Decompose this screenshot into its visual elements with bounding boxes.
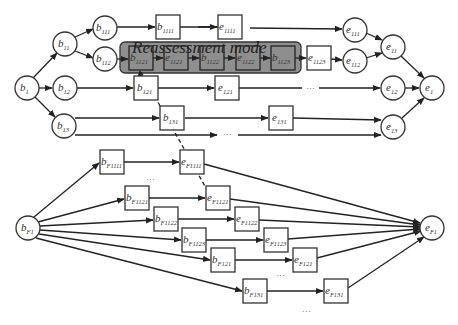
node-bF131: bF131 [243,279,267,303]
edge-bF1-bF1122 [40,220,153,226]
node-bF1122: bF1122 [154,207,178,231]
node-e12: e12 [381,76,405,100]
node-eF1111: eF1111 [180,150,204,174]
edge-e131-e13 [293,118,381,120]
ellipsis-marker: ··· [276,270,285,280]
node-e1123: e1123 [307,46,331,70]
edge-e112-e11 [366,53,382,58]
ellipsis-marker: ··· [203,22,212,32]
edge-b11-b112 [75,51,93,58]
node-b11: b11 [53,32,77,56]
node-b12: b12 [53,76,77,100]
node-e131: e131 [269,106,293,130]
edge-e111-e11 [366,33,382,40]
node-b111: b111 [93,16,117,40]
node-b1111: b1111 [156,15,180,39]
ellipsis-marker: ··· [146,174,155,184]
node-e1111: e1111 [218,15,242,39]
edge-eF1123-eF1 [288,229,420,239]
process-flow-diagram: b1b11b12b13b111b112b1111e1111b1121e1121b… [0,0,458,325]
node-e13: e13 [381,115,405,139]
edge-b1-b13 [35,97,55,117]
edge-eF131-eF1 [348,237,424,288]
node-e1: e1 [420,76,444,100]
edge-b11-b111 [75,29,93,37]
node-bF1111: bF1111 [100,150,124,174]
node-e11: e11 [381,35,405,59]
edge-e11-e1 [401,56,424,78]
node-b1123: b1123 [271,46,295,70]
node-b121: b121 [134,76,158,100]
node-eF1121: eF1121 [206,186,230,210]
node-eF121: eF121 [293,248,317,272]
edge-e13-e1 [402,98,424,118]
reassessment-mode-label: Reassessment mode [131,38,267,57]
edge-e1123-e112 [331,59,342,60]
node-e121: e121 [215,76,239,100]
node-eF1: eF1 [420,216,444,240]
ellipsis-marker: ··· [306,83,315,93]
node-bF1: bF1 [16,216,40,240]
ellipsis-marker: ··· [223,129,232,139]
node-eF1123: eF1123 [264,228,288,252]
node-b1: b1 [15,76,39,100]
node-e112: e112 [343,49,367,73]
ellipsis-marker: ··· [302,306,311,316]
edge-b1-b11 [33,53,57,78]
node-bF1121: bF1121 [125,186,149,210]
node-b13: b13 [52,114,76,138]
node-eF1122: eF1122 [235,207,259,231]
edge-dots-e111 [250,28,342,29]
node-b131: b131 [160,106,184,130]
node-bF121: bF121 [211,248,235,272]
node-eF131: eF131 [324,279,348,303]
node-e111: e111 [343,18,367,42]
node-b112: b112 [93,47,117,71]
node-bF1123: bF1123 [182,228,206,252]
